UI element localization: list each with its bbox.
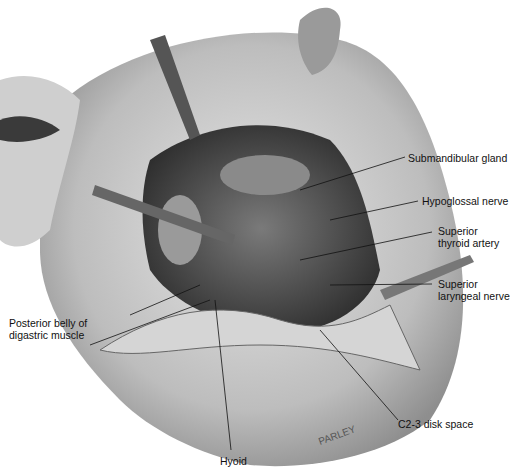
label-hypoglossal-nerve: Hypoglossal nerve — [422, 195, 508, 207]
label-posterior-belly-line2: digastric muscle — [9, 329, 84, 341]
label-superior-thyroid-artery-line2: thyroid artery — [438, 237, 499, 249]
label-superior-laryngeal-nerve-line1: Superior — [438, 278, 478, 290]
label-c23-disk-space: C2-3 disk space — [398, 418, 473, 430]
gland-shape — [220, 155, 310, 195]
label-submandibular-gland: Submandibular gland — [408, 152, 507, 164]
label-superior-laryngeal-nerve-line2: laryngeal nerve — [438, 290, 510, 302]
label-superior-thyroid-artery-line1: Superior — [438, 225, 478, 237]
label-hyoid: Hyoid — [220, 455, 247, 467]
illustration-stage: PARLEY Submandibular gland Hypoglossal n… — [0, 0, 522, 471]
label-posterior-belly-line1: Posterior belly of — [9, 317, 87, 329]
